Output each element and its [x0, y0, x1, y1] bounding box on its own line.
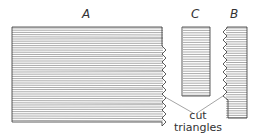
- board-c: [182, 27, 210, 96]
- board-b: [223, 27, 247, 118]
- label-b: B: [230, 7, 238, 21]
- label-a: A: [82, 7, 90, 21]
- caption-cut-triangles: cut triangles: [168, 110, 228, 134]
- label-c: C: [191, 7, 199, 21]
- board-a: [12, 27, 166, 126]
- caption-line-2: triangles: [168, 122, 228, 134]
